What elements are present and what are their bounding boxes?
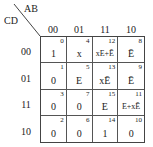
cell-value: 0 xyxy=(67,101,92,112)
kmap-cell: 9Ē xyxy=(118,63,144,89)
cell-index: 0 xyxy=(60,38,64,45)
column-header: 10 xyxy=(118,24,144,35)
row-variable-label: CD xyxy=(4,16,18,26)
row-header: 11 xyxy=(16,99,36,110)
cell-index: 8 xyxy=(139,38,143,45)
cell-index: 11 xyxy=(135,91,142,98)
column-header: 01 xyxy=(66,24,92,35)
cell-value: 1 xyxy=(41,48,66,59)
cell-index: 1 xyxy=(60,64,64,71)
cell-value: Ē xyxy=(118,75,144,86)
cell-index: 12 xyxy=(108,38,115,45)
kmap-cell: 4x xyxy=(67,37,93,63)
cell-index: 14 xyxy=(108,117,115,124)
row-header: 01 xyxy=(16,73,36,84)
row-header: 00 xyxy=(16,46,36,57)
cell-value: 0 xyxy=(41,75,66,86)
kmap-cell: 13xĒ xyxy=(93,63,119,89)
kmap-cell: 20 xyxy=(41,116,67,142)
cell-value: x xyxy=(67,48,92,59)
kmap-cell: 5E xyxy=(67,63,93,89)
cell-index: 9 xyxy=(139,64,143,71)
cell-value: 1 xyxy=(93,128,118,139)
cell-index: 5 xyxy=(86,64,90,71)
cell-index: 7 xyxy=(86,91,90,98)
cell-value: xĒ xyxy=(93,75,118,86)
cell-index: 4 xyxy=(86,38,90,45)
cell-value: E xyxy=(67,75,92,86)
cell-value: 0 xyxy=(41,101,66,112)
kmap-cell: 01 xyxy=(41,37,67,63)
kmap-cell: 141 xyxy=(93,116,119,142)
row-header: 10 xyxy=(16,126,36,137)
kmap-cell: 15E xyxy=(93,90,119,116)
cell-value: 0 xyxy=(118,128,144,139)
karnaugh-map-grid: 01 4x 12xE+Ē 8Ē 10 5E 13xĒ 9Ē 30 70 15E … xyxy=(40,36,145,143)
cell-value: E+xĒ xyxy=(118,101,144,112)
kmap-cell: 8Ē xyxy=(118,37,144,63)
kmap-cell: 12xE+Ē xyxy=(93,37,119,63)
kmap-cell: 70 xyxy=(67,90,93,116)
cell-value: xE+Ē xyxy=(93,48,118,59)
cell-index: 6 xyxy=(86,117,90,124)
cell-value: 0 xyxy=(41,128,66,139)
cell-value: E xyxy=(93,101,118,112)
kmap-cell: 30 xyxy=(41,90,67,116)
cell-value: Ē xyxy=(118,48,144,59)
cell-index: 13 xyxy=(108,64,115,71)
kmap-cell: 11E+xĒ xyxy=(118,90,144,116)
column-header: 11 xyxy=(92,24,118,35)
column-header: 00 xyxy=(40,24,66,35)
cell-index: 3 xyxy=(60,91,64,98)
kmap-cell: 100 xyxy=(118,116,144,142)
column-variable-label: AB xyxy=(24,4,38,14)
cell-index: 10 xyxy=(135,117,142,124)
kmap-cell: 60 xyxy=(67,116,93,142)
cell-index: 15 xyxy=(108,91,115,98)
cell-index: 2 xyxy=(60,117,64,124)
kmap-cell: 10 xyxy=(41,63,67,89)
cell-value: 0 xyxy=(67,128,92,139)
